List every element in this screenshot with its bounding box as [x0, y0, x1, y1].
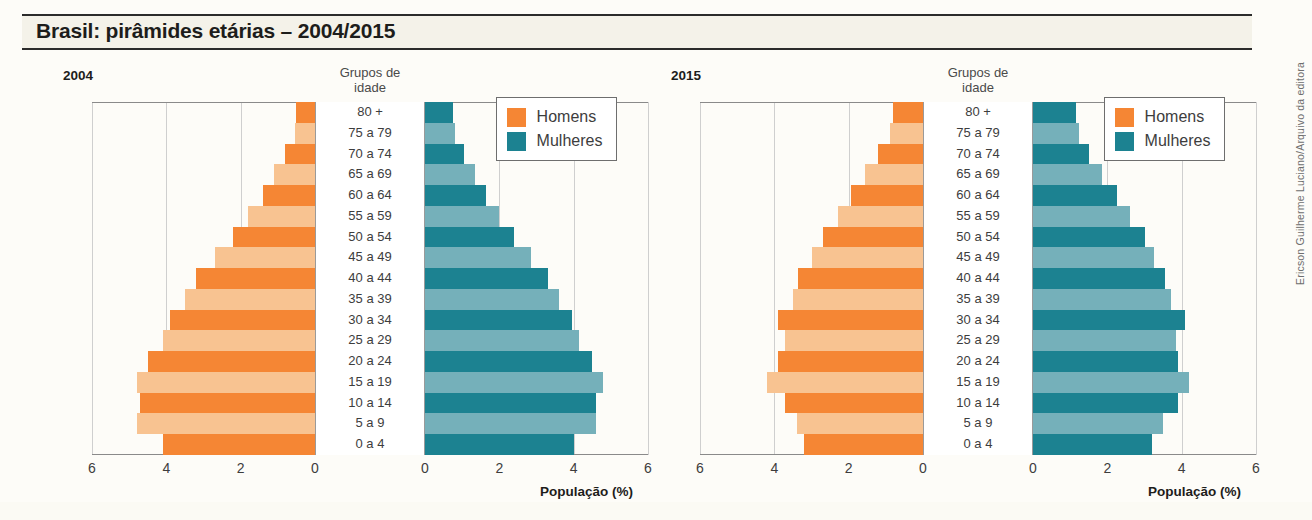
x-axis-title-2015: População (%)	[1148, 484, 1241, 499]
bar-men	[248, 206, 315, 227]
age-group-label: 25 a 29	[923, 330, 1033, 351]
x-tick-left-4: 4	[770, 460, 778, 476]
x-tick-right-2: 2	[1103, 460, 1111, 476]
age-group-label: 40 a 44	[923, 268, 1033, 289]
bar-men	[812, 247, 924, 268]
legend-row-men-2015: Homens	[1115, 105, 1211, 129]
legend-2015: Homens Mulheres	[1104, 97, 1226, 161]
x-tick-left-6: 6	[696, 460, 704, 476]
bar-men	[785, 330, 923, 351]
panel-2004: 2004 Grupos de idade 80 +75 a 7970 a 746…	[60, 60, 680, 500]
bar-women	[1033, 413, 1163, 434]
bar-women	[425, 330, 579, 351]
age-group-label: 45 a 49	[923, 247, 1033, 268]
bar-women	[1033, 330, 1176, 351]
bar-women	[1033, 185, 1117, 206]
bar-women	[1033, 123, 1079, 144]
age-group-label: 10 a 14	[315, 393, 425, 414]
age-group-label: 60 a 64	[315, 185, 425, 206]
x-tick-right-2: 2	[495, 460, 503, 476]
x-ticks-2015: 64200246	[668, 460, 1288, 480]
bar-men	[295, 123, 315, 144]
bar-women	[1033, 268, 1165, 289]
bar-men	[767, 372, 923, 393]
bar-men	[185, 289, 315, 310]
figure-root: Brasil: pirâmides etárias – 2004/2015 Er…	[0, 0, 1312, 520]
age-group-label: 75 a 79	[315, 123, 425, 144]
x-tick-left-4: 4	[162, 460, 170, 476]
bar-men	[263, 185, 315, 206]
legend-label-women: Mulheres	[1145, 132, 1211, 150]
x-tick-right-0: 0	[421, 460, 429, 476]
bar-men	[196, 268, 315, 289]
bar-men	[798, 268, 923, 289]
age-group-label: 75 a 79	[923, 123, 1033, 144]
bar-men	[137, 413, 315, 434]
bar-men	[148, 351, 315, 372]
legend-swatch-women-icon	[1115, 132, 1134, 151]
age-group-label: 15 a 19	[923, 372, 1033, 393]
bar-women	[425, 185, 486, 206]
age-group-label: 65 a 69	[315, 164, 425, 185]
group-header-2015: Grupos de idade	[923, 65, 1033, 95]
x-tick-left-0: 0	[311, 460, 319, 476]
page-title: Brasil: pirâmides etárias – 2004/2015	[36, 19, 395, 43]
bar-women	[1033, 289, 1171, 310]
age-group-label: 20 a 24	[315, 351, 425, 372]
x-tick-left-6: 6	[88, 460, 96, 476]
age-group-label: 35 a 39	[923, 289, 1033, 310]
bar-women	[425, 351, 592, 372]
bar-women	[1033, 310, 1185, 331]
legend-label-men: Homens	[537, 108, 597, 126]
group-header-line2: idade	[354, 80, 386, 95]
age-group-label: 25 a 29	[315, 330, 425, 351]
bar-women	[425, 206, 499, 227]
legend-label-women: Mulheres	[537, 132, 603, 150]
age-group-label: 0 a 4	[315, 434, 425, 455]
legend-row-women-2015: Mulheres	[1115, 129, 1211, 153]
x-tick-left-2: 2	[237, 460, 245, 476]
age-group-label: 50 a 54	[923, 227, 1033, 248]
age-group-label: 55 a 59	[315, 206, 425, 227]
year-label-2015: 2015	[671, 68, 701, 83]
x-tick-right-6: 6	[644, 460, 652, 476]
legend-swatch-women-icon	[507, 132, 526, 151]
age-group-label: 40 a 44	[315, 268, 425, 289]
bar-men	[785, 393, 923, 414]
age-group-label: 65 a 69	[923, 164, 1033, 185]
bar-men	[285, 144, 315, 165]
x-tick-right-6: 6	[1252, 460, 1260, 476]
legend-row-men-2004: Homens	[507, 105, 603, 129]
bar-men	[140, 393, 315, 414]
legend-row-women-2004: Mulheres	[507, 129, 603, 153]
bottom-margin	[0, 502, 1312, 520]
group-header-2004: Grupos de idade	[315, 65, 425, 95]
bar-women	[1033, 393, 1178, 414]
bar-women	[425, 144, 464, 165]
bar-women	[425, 227, 514, 248]
bar-women	[425, 102, 453, 123]
group-header-line1: Grupos de	[340, 65, 401, 80]
age-group-label: 10 a 14	[923, 393, 1033, 414]
bar-men	[170, 310, 315, 331]
bar-women	[425, 268, 548, 289]
bar-women	[425, 247, 531, 268]
bar-women	[1033, 102, 1076, 123]
age-group-label: 0 a 4	[923, 434, 1033, 455]
bar-men	[793, 289, 923, 310]
bar-women	[425, 372, 603, 393]
bar-women	[1033, 164, 1102, 185]
x-tick-right-4: 4	[570, 460, 578, 476]
bar-men	[893, 102, 923, 123]
bar-men	[865, 164, 923, 185]
legend-2004: Homens Mulheres	[496, 97, 618, 161]
credit-text: Ericson Guilherme Luciano/Arquivo da edi…	[1294, 62, 1310, 285]
bar-men	[851, 185, 923, 206]
bar-men	[163, 434, 315, 455]
age-group-label: 70 a 74	[315, 144, 425, 165]
x-axis-title-2004: População (%)	[540, 484, 633, 499]
bar-women	[425, 393, 596, 414]
bar-men	[215, 247, 315, 268]
bar-women	[1033, 247, 1154, 268]
x-tick-right-0: 0	[1029, 460, 1037, 476]
